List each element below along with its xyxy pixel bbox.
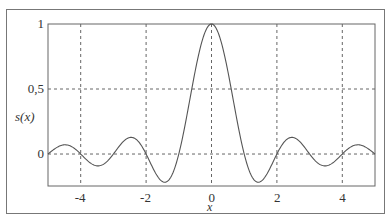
y-tick-label: 0 <box>38 147 45 160</box>
x-tick-label: -2 <box>140 191 151 204</box>
y-axis-label: s(x) <box>15 110 35 123</box>
x-axis-label: x <box>207 201 212 213</box>
y-tick-label: 1 <box>38 17 45 30</box>
plot-area <box>0 0 390 218</box>
y-tick-label: 0,5 <box>28 82 44 95</box>
x-tick-label: 2 <box>274 191 281 204</box>
x-tick-label: 4 <box>339 191 346 204</box>
x-tick-label: -4 <box>75 191 86 204</box>
grid-lines <box>48 24 375 186</box>
